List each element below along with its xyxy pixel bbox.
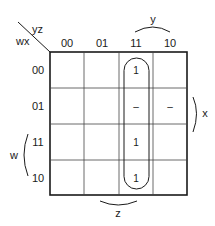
col-var-label: yz (32, 24, 43, 35)
brace-w (24, 134, 28, 176)
row-header: 00 (30, 65, 46, 76)
cell-01-11: – (119, 88, 153, 124)
brace-label-w: w (9, 150, 19, 161)
brace-y (135, 27, 170, 32)
brace-label-z: z (113, 208, 123, 219)
row-header: 11 (30, 137, 46, 148)
row-header: 01 (30, 101, 46, 112)
col-header: 10 (160, 38, 180, 49)
row-header: 10 (30, 173, 46, 184)
brace-label-y: y (148, 14, 158, 25)
cell-01-10: – (153, 88, 187, 124)
col-header: 00 (57, 38, 77, 49)
brace-z (100, 201, 137, 205)
cell-00-11: 1 (119, 52, 153, 88)
row-var-label: wx (16, 36, 29, 47)
brace-x (193, 97, 197, 132)
brace-label-x: x (200, 108, 210, 119)
cell-10-11: 1 (119, 160, 153, 196)
col-header: 01 (92, 38, 112, 49)
col-header: 11 (126, 38, 146, 49)
cell-11-11: 1 (119, 124, 153, 160)
